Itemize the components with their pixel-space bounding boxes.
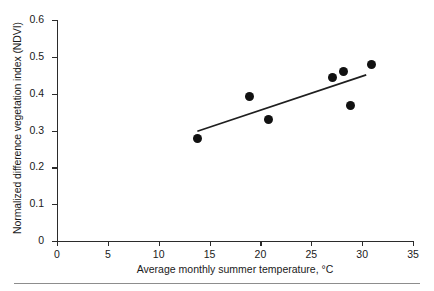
x-tick-label: 10 xyxy=(139,248,179,260)
data-point xyxy=(339,67,348,76)
data-point xyxy=(264,115,273,124)
x-tick xyxy=(260,241,261,246)
y-tick-label: 0 xyxy=(38,234,44,246)
y-tick: 0.5 xyxy=(52,57,57,58)
x-tick-label: 15 xyxy=(190,248,230,260)
figure-scatter-ndvi-vs-temperature: Normalized difference vegetation index (… xyxy=(0,0,434,291)
x-tick xyxy=(413,241,414,246)
x-tick xyxy=(362,241,363,246)
y-tick: 0.6 xyxy=(52,20,57,21)
x-tick-label: 0 xyxy=(37,248,77,260)
data-point xyxy=(328,73,337,82)
y-tick-label: 0.2 xyxy=(29,160,44,172)
x-tick xyxy=(311,241,312,246)
x-axis-line xyxy=(57,241,413,242)
y-tick-label: 0.1 xyxy=(29,197,44,209)
y-axis-title: Normalized difference vegetation index (… xyxy=(9,12,25,244)
x-tick xyxy=(108,241,109,246)
y-tick: 0.1 xyxy=(52,204,57,205)
y-tick-label: 0.3 xyxy=(29,124,44,136)
y-tick: 0.4 xyxy=(52,94,57,95)
y-tick-label: 0.4 xyxy=(29,87,44,99)
y-tick-label: 0.5 xyxy=(29,50,44,62)
plot-area: 00.10.20.30.40.50.6 05101520253035 xyxy=(57,20,413,241)
x-tick-label: 35 xyxy=(393,248,433,260)
y-tick-label: 0.6 xyxy=(29,13,44,25)
y-tick: 0.3 xyxy=(52,131,57,132)
trendline xyxy=(57,20,413,241)
x-tick-label: 30 xyxy=(342,248,382,260)
x-axis-title: Average monthly summer temperature, °C xyxy=(57,263,413,275)
x-tick-label: 20 xyxy=(240,248,280,260)
x-tick-label: 25 xyxy=(291,248,331,260)
x-tick-label: 5 xyxy=(88,248,128,260)
x-tick xyxy=(159,241,160,246)
footer-divider xyxy=(14,283,420,284)
x-tick xyxy=(57,241,58,246)
y-tick: 0.2 xyxy=(52,167,57,168)
x-tick xyxy=(210,241,211,246)
